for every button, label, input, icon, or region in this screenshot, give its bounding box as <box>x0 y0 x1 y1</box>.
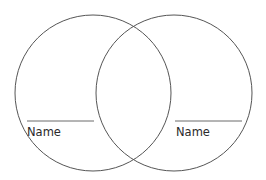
right-circle-label: Name <box>176 127 210 139</box>
right-circle <box>96 15 252 171</box>
venn-diagram <box>0 0 266 180</box>
left-circle <box>15 15 171 171</box>
left-circle-label: Name <box>27 127 61 139</box>
